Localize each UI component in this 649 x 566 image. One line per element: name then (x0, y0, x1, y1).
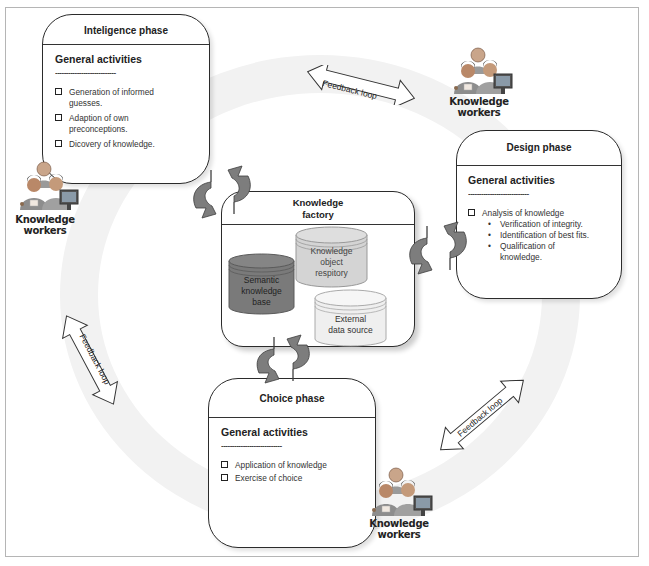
activity-item: Generation of informed guesses. (55, 87, 199, 109)
activity-item: Application of knowledge (221, 460, 365, 471)
cycle-arrows-icon-choice (251, 330, 317, 388)
sub-activity-item: • Verification of integrity. (468, 219, 611, 230)
design-phase-box: Design phase General activities --------… (456, 130, 622, 299)
knowledge-workers-left: Knowledge workers (10, 160, 80, 236)
activity-item: Dicovery of knowledge. (55, 139, 199, 150)
people-group-icon (444, 46, 514, 96)
cycle-arrows-icon-intelligence (188, 160, 258, 224)
checkbox-icon (55, 114, 62, 121)
knowledge-workers-bottom: Knowledge workers (362, 466, 436, 540)
activity-item: Analysis of knowledge (468, 208, 611, 219)
intelligence-phase-box: Inteligence phase General activities ---… (42, 14, 210, 184)
checkbox-icon (221, 474, 228, 481)
divider: ---------------------------- (221, 441, 301, 450)
checkbox-icon (468, 209, 475, 216)
activity-item: Adaption of own preconceptions. (55, 113, 199, 135)
divider: ---------------------------- (55, 68, 135, 77)
sub-activity-item: • Identification of best fits. (468, 230, 611, 241)
knowledge-workers-top-right: Knowledge workers (444, 46, 514, 118)
knowledge-object-repository-database: Knowledge object respitory (295, 226, 368, 288)
external-data-source-database: External data source (314, 289, 387, 347)
general-activities-heading: General activities (468, 174, 611, 186)
semantic-knowledge-base-database: Semantic knowledge base (228, 253, 295, 315)
divider: ---------------------------- (468, 189, 548, 198)
general-activities-heading: General activities (55, 53, 199, 65)
general-activities-heading: General activities (221, 426, 365, 438)
feedback-loop-arrow-right: Feedback loop (432, 370, 532, 460)
intelligence-phase-title: Inteligence phase (43, 15, 209, 45)
people-group-icon (10, 160, 80, 214)
checkbox-icon (221, 461, 228, 468)
checkbox-icon (55, 140, 62, 147)
double-arrow-icon (302, 65, 420, 105)
sub-activity-item: • Qualification of knowledge. (468, 241, 611, 263)
people-group-icon (362, 466, 436, 518)
feedback-loop-arrow-left: Feedback loop (60, 305, 120, 415)
feedback-loop-arrow-top: Feedback loop (302, 65, 420, 105)
checkbox-icon (55, 88, 62, 95)
choice-phase-box: Choice phase General activities --------… (208, 378, 376, 548)
cycle-arrows-icon-design (404, 216, 474, 280)
design-phase-title: Design phase (457, 131, 621, 166)
activity-item: Exercise of choice (221, 473, 365, 484)
